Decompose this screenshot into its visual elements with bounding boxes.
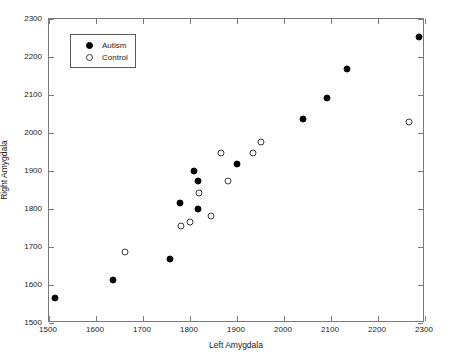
data-point-autism	[51, 294, 58, 301]
data-point-autism	[190, 168, 197, 175]
y-tick-mark	[418, 209, 423, 210]
x-tick-mark	[284, 19, 285, 24]
y-tick-mark	[49, 285, 54, 286]
data-point-autism	[324, 95, 331, 102]
x-tick-mark	[49, 316, 50, 321]
x-tick-mark	[96, 19, 97, 24]
x-tick-mark	[96, 316, 97, 321]
x-tick-mark	[425, 316, 426, 321]
y-tick-mark	[418, 323, 423, 324]
y-tick-label: 1800	[24, 204, 42, 213]
x-tick-mark	[425, 19, 426, 24]
x-tick-label: 1600	[86, 325, 104, 334]
data-point-control	[257, 138, 264, 145]
x-tick-label: 1900	[227, 325, 245, 334]
data-point-autism	[177, 199, 184, 206]
y-tick-mark	[49, 19, 54, 20]
data-point-autism	[416, 34, 423, 41]
y-tick-mark	[49, 247, 54, 248]
legend-entry-control: Control	[76, 51, 128, 63]
x-tick-mark	[378, 19, 379, 24]
x-tick-mark	[143, 316, 144, 321]
data-point-control	[218, 149, 225, 156]
data-point-autism	[166, 255, 173, 262]
x-tick-mark	[190, 19, 191, 24]
legend-marker-control-cell	[76, 54, 102, 61]
y-tick-label: 1700	[24, 242, 42, 251]
legend-label-autism: Autism	[102, 41, 126, 50]
x-tick-label: 2000	[274, 325, 292, 334]
x-tick-label: 1500	[39, 325, 57, 334]
y-tick-label: 2000	[24, 128, 42, 137]
data-point-autism	[110, 277, 117, 284]
x-tick-mark	[143, 19, 144, 24]
y-tick-label: 2100	[24, 90, 42, 99]
data-point-control	[122, 248, 129, 255]
y-tick-label: 2200	[24, 52, 42, 61]
y-tick-label: 1900	[24, 166, 42, 175]
data-point-control	[225, 177, 232, 184]
data-point-autism	[343, 66, 350, 73]
open-circle-icon	[86, 54, 93, 61]
y-tick-mark	[49, 209, 54, 210]
x-tick-mark	[237, 316, 238, 321]
legend-marker-autism-cell	[76, 42, 102, 49]
y-axis-title: Right Amygdala	[0, 140, 9, 200]
y-tick-mark	[49, 133, 54, 134]
y-tick-mark	[418, 19, 423, 20]
x-tick-mark	[378, 316, 379, 321]
data-point-control	[187, 218, 194, 225]
filled-circle-icon	[86, 42, 93, 49]
y-tick-mark	[49, 95, 54, 96]
legend-entry-autism: Autism	[76, 39, 128, 51]
x-tick-label: 2300	[415, 325, 433, 334]
scatter-plot-figure: Right Amygdala 1500160017001800190020002…	[0, 0, 451, 364]
y-tick-mark	[418, 285, 423, 286]
x-tick-mark	[331, 19, 332, 24]
x-axis-title: Left Amygdala	[48, 340, 424, 350]
x-tick-label: 2200	[368, 325, 386, 334]
data-point-control	[406, 119, 413, 126]
y-tick-mark	[418, 133, 423, 134]
legend-label-control: Control	[102, 53, 128, 62]
y-tick-label: 2300	[24, 14, 42, 23]
data-point-autism	[234, 161, 241, 168]
y-tick-mark	[418, 57, 423, 58]
data-point-control	[249, 149, 256, 156]
x-tick-label: 1800	[180, 325, 198, 334]
x-tick-label: 1700	[133, 325, 151, 334]
y-tick-mark	[49, 171, 54, 172]
y-tick-mark	[418, 171, 423, 172]
y-tick-mark	[49, 323, 54, 324]
x-tick-mark	[237, 19, 238, 24]
data-point-autism	[195, 177, 202, 184]
y-tick-mark	[49, 57, 54, 58]
data-point-autism	[194, 206, 201, 213]
legend: Autism Control	[70, 34, 136, 68]
x-tick-label: 2100	[321, 325, 339, 334]
y-tick-label: 1600	[24, 280, 42, 289]
x-tick-mark	[331, 316, 332, 321]
y-tick-mark	[418, 95, 423, 96]
data-point-control	[177, 223, 184, 230]
x-tick-mark	[284, 316, 285, 321]
data-point-control	[195, 189, 202, 196]
data-point-autism	[299, 115, 306, 122]
x-tick-mark	[190, 316, 191, 321]
y-tick-mark	[418, 247, 423, 248]
data-point-control	[208, 213, 215, 220]
